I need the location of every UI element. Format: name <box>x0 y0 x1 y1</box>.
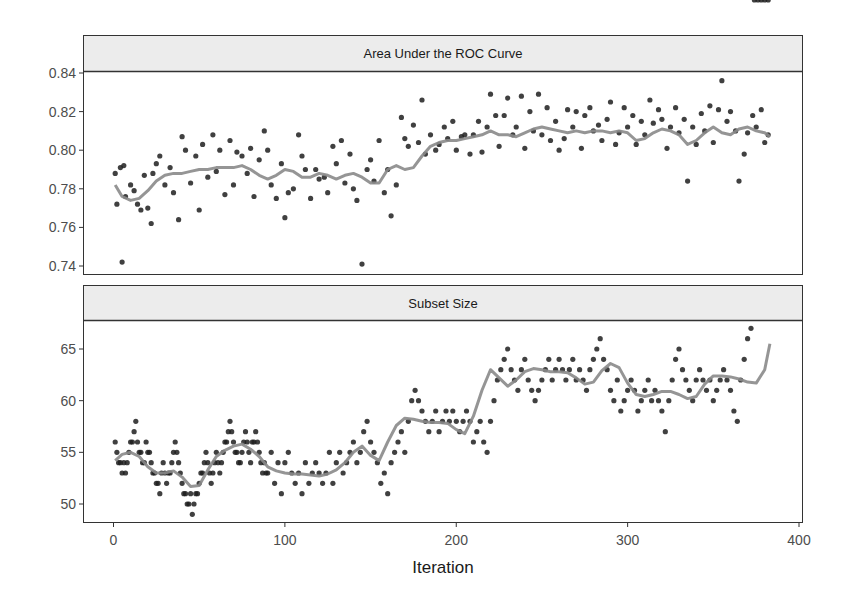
data-point <box>745 130 750 135</box>
data-point <box>731 408 736 413</box>
data-point <box>668 124 673 129</box>
faceted-scatter-chart: Area Under the ROC Curve 0.740.760.780.8… <box>0 0 854 599</box>
data-point <box>426 429 431 434</box>
strip-label-subset-size: Subset Size <box>408 296 477 311</box>
data-point <box>147 450 152 455</box>
y-tick-label: 0.84 <box>49 65 76 81</box>
y-tick-label: 65 <box>60 341 76 357</box>
data-point <box>433 148 438 153</box>
data-point <box>625 124 630 129</box>
data-point <box>680 367 685 372</box>
data-point <box>402 450 407 455</box>
data-point <box>174 450 179 455</box>
data-point <box>687 388 692 393</box>
data-point <box>522 357 527 362</box>
data-point <box>514 124 519 129</box>
data-point <box>536 92 541 97</box>
data-point <box>673 357 678 362</box>
data-point <box>197 207 202 212</box>
data-point <box>341 470 346 475</box>
data-point <box>130 439 135 444</box>
data-point <box>629 377 634 382</box>
data-point <box>114 202 119 207</box>
data-point <box>113 171 118 176</box>
data-point <box>745 336 750 341</box>
data-point <box>125 460 130 465</box>
data-point <box>195 491 200 496</box>
data-point <box>748 326 753 331</box>
data-point <box>685 179 690 184</box>
data-point <box>622 398 627 403</box>
data-point <box>351 439 356 444</box>
data-point <box>582 113 587 118</box>
data-point <box>527 109 532 114</box>
data-point <box>428 132 433 137</box>
data-point <box>666 398 671 403</box>
panel-auc: Area Under the ROC Curve 0.740.760.780.8… <box>49 36 803 275</box>
data-point <box>296 132 301 137</box>
data-point <box>299 491 304 496</box>
data-point <box>274 196 279 201</box>
data-point <box>149 221 154 226</box>
data-point <box>646 377 651 382</box>
data-point <box>161 460 166 465</box>
data-point <box>442 124 447 129</box>
data-point <box>481 439 486 444</box>
data-point <box>464 408 469 413</box>
data-point <box>238 460 243 465</box>
data-point <box>471 439 476 444</box>
data-point <box>306 481 311 486</box>
data-point <box>462 132 467 137</box>
data-point <box>656 398 661 403</box>
data-point <box>149 460 154 465</box>
data-point <box>365 419 370 424</box>
data-point <box>279 161 284 166</box>
data-point <box>121 163 126 168</box>
data-point <box>227 419 232 424</box>
x-axis: 0100200300400 <box>110 523 811 549</box>
data-point <box>707 103 712 108</box>
data-point <box>759 107 764 112</box>
data-point <box>395 439 400 444</box>
y-tick-label: 50 <box>60 496 76 512</box>
data-point <box>536 388 541 393</box>
data-point <box>493 113 498 118</box>
data-point <box>385 491 390 496</box>
data-point <box>378 481 383 486</box>
data-point <box>214 169 219 174</box>
data-point <box>269 450 274 455</box>
data-point <box>210 132 215 137</box>
data-point <box>282 215 287 220</box>
x-axis-title: Iteration <box>412 558 473 577</box>
data-point <box>168 165 173 170</box>
data-point <box>154 161 159 166</box>
data-point <box>416 398 421 403</box>
data-point <box>389 460 394 465</box>
data-point <box>176 460 181 465</box>
data-point <box>570 357 575 362</box>
data-point <box>724 119 729 124</box>
data-point <box>634 142 639 147</box>
data-point <box>162 182 167 187</box>
data-point <box>605 117 610 122</box>
data-point <box>361 429 366 434</box>
data-point <box>157 491 162 496</box>
data-point <box>293 481 298 486</box>
data-point <box>670 377 675 382</box>
data-point <box>690 124 695 129</box>
data-point <box>721 367 726 372</box>
data-point <box>303 460 308 465</box>
y-axis-auc: 0.740.760.780.800.820.84 <box>49 65 84 274</box>
data-point <box>144 439 149 444</box>
data-point <box>138 450 143 455</box>
data-point <box>611 398 616 403</box>
data-point <box>557 357 562 362</box>
data-point <box>275 460 280 465</box>
data-point <box>193 153 198 158</box>
data-point <box>342 180 347 185</box>
data-point <box>138 207 143 212</box>
data-point <box>577 367 582 372</box>
data-point <box>682 117 687 122</box>
data-point <box>128 182 133 187</box>
data-point <box>736 179 741 184</box>
